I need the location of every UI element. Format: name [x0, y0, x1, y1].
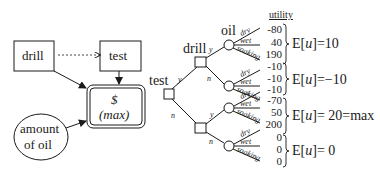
expected-utility-4: E[u]= 0: [292, 144, 335, 158]
oil-chance-node-2: [224, 81, 234, 91]
chance-node-label-line2: of oil: [24, 138, 52, 151]
utility-value: 190: [258, 49, 282, 60]
test-decision-square: [164, 89, 174, 99]
utility-value: 40: [258, 37, 282, 48]
tree-oil-label: oil: [221, 24, 236, 38]
drill-no-label-upper: n: [207, 75, 211, 83]
tree-drill-label: drill: [183, 42, 206, 56]
utility-symbol: $: [111, 93, 118, 106]
utility-value: 0: [258, 144, 282, 155]
utility-value: -70: [258, 95, 282, 106]
chance-node-label-line1: amount: [20, 122, 59, 135]
utility-value: 50: [258, 107, 282, 118]
utility-header: utility: [269, 10, 293, 20]
drill-no-label-lower: n: [209, 138, 213, 146]
utility-value: -80: [258, 24, 282, 35]
group-braces: [283, 24, 289, 167]
expected-utility-2: E[u]=−10: [292, 73, 347, 87]
drill-yes-label-upper: y: [209, 46, 213, 54]
oil-chance-node-1: [224, 40, 234, 50]
utility-max-label: (max): [99, 108, 129, 121]
expected-utility-1: E[u]=10: [292, 37, 339, 51]
drill-decision-square-upper: [195, 57, 206, 67]
oil-chance-node-4: [224, 141, 234, 151]
drill-to-utility-arrow: [54, 71, 86, 88]
tree-test-label: test: [149, 74, 168, 88]
drill-decision-square-lower: [195, 123, 206, 133]
utility-value: 0: [258, 156, 282, 167]
oil-to-utility-arrow: [66, 121, 86, 128]
drill-node-label: drill: [22, 49, 44, 62]
utility-value: -10: [258, 61, 282, 72]
test-yes-branch: [172, 67, 197, 89]
utility-value: 0: [258, 132, 282, 143]
test-no-label: n: [171, 112, 175, 120]
test-yes-label: y: [178, 76, 182, 84]
expected-utility-3-max: E[u]= 20=max: [292, 109, 374, 123]
oil-chance-node-3: [224, 103, 234, 113]
test-no-branch: [172, 99, 197, 124]
test-node-label: test: [109, 49, 127, 62]
lower-drill-yes-branch: [206, 110, 224, 124]
drill-yes-label-lower: y: [210, 111, 214, 119]
utility-value: 200: [258, 119, 282, 130]
